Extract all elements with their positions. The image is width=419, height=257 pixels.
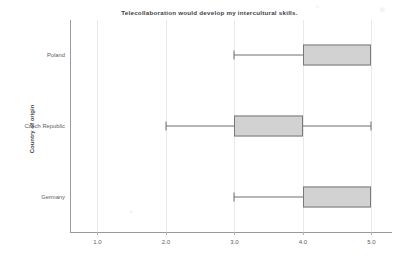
chart-title: Telecollaboration would develop my inter… (0, 9, 419, 16)
x-axis-line (70, 232, 392, 233)
tick-mark-3.0 (234, 232, 235, 235)
scan-speck (130, 210, 133, 213)
plot-area: 1.02.03.04.05.0 PolandCzech RepublicGerm… (70, 20, 392, 232)
x-tick-label-5.0: 5.0 (367, 239, 375, 245)
tick-mark-1.0 (97, 232, 98, 235)
whisker-cap-low-poland (234, 51, 235, 60)
whisker-cap-low-germany (234, 192, 235, 201)
tick-mark-5.0 (371, 232, 372, 235)
y-category-label-germany: Germany (41, 194, 70, 200)
box-poland (303, 45, 372, 66)
whisker-cap-high-czech-republic (371, 122, 372, 131)
scan-speck (380, 7, 385, 12)
x-tick-label-3.0: 3.0 (230, 239, 238, 245)
whisker-cap-low-czech-republic (165, 122, 166, 131)
box-czech-republic (234, 116, 303, 137)
x-tick-label-4.0: 4.0 (299, 239, 307, 245)
y-category-label-czech-republic: Czech Republic (24, 123, 70, 129)
box-series (70, 20, 392, 232)
x-tick-label-2.0: 2.0 (162, 239, 170, 245)
box-germany (303, 186, 372, 207)
tick-mark-2.0 (166, 232, 167, 235)
tick-mark-4.0 (303, 232, 304, 235)
boxplot-chart: Telecollaboration would develop my inter… (0, 0, 419, 257)
scan-speck (316, 5, 319, 8)
y-category-label-poland: Poland (47, 52, 70, 58)
x-tick-label-1.0: 1.0 (93, 239, 101, 245)
